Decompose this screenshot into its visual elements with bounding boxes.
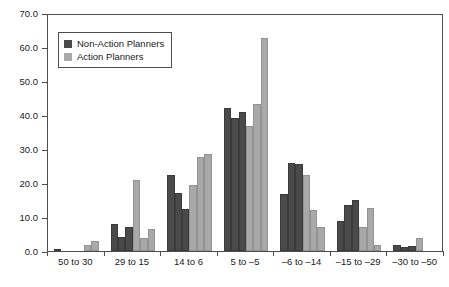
bar	[253, 104, 260, 251]
bar	[140, 238, 147, 251]
bar-chart: 0.010.020.030.040.050.060.070.0 50 to 30…	[0, 0, 449, 287]
x-axis-group-label: 29 to 15	[115, 256, 149, 267]
y-axis-tick-label: 0.0	[25, 247, 38, 257]
bar	[197, 157, 204, 251]
bar	[393, 245, 400, 251]
bar	[310, 210, 317, 251]
bar	[167, 175, 174, 252]
bar	[288, 163, 295, 251]
y-axis-tick-label: 30.0	[20, 145, 39, 155]
bar	[148, 229, 155, 251]
bar	[337, 221, 344, 251]
bar	[401, 247, 408, 251]
bar	[367, 208, 374, 251]
y-axis-tick-label: 70.0	[20, 9, 39, 19]
x-axis-group-label: 50 to 30	[58, 256, 92, 267]
bar	[91, 241, 98, 251]
bar	[280, 194, 287, 251]
y-axis-tick-label: 20.0	[20, 179, 39, 189]
x-axis: 50 to 3029 to 1514 to 65 to –5–6 to –14–…	[47, 256, 443, 276]
x-axis-tick-mark	[47, 251, 48, 256]
legend-swatch-action-planners	[64, 53, 72, 61]
bar	[246, 126, 253, 251]
x-axis-tick-mark	[330, 251, 331, 256]
bar	[261, 38, 268, 251]
bar	[175, 193, 182, 251]
bar	[416, 238, 423, 251]
y-axis: 0.010.020.030.040.050.060.070.0	[0, 0, 47, 287]
bar	[359, 227, 366, 251]
legend-item: Action Planners	[64, 50, 164, 63]
y-axis-tick-label: 40.0	[20, 111, 39, 121]
bar	[54, 249, 61, 251]
x-axis-group-label: 14 to 6	[174, 256, 203, 267]
bar	[352, 200, 359, 251]
bar	[224, 108, 231, 251]
x-axis-tick-mark	[160, 251, 161, 256]
bar	[295, 164, 302, 251]
x-axis-group-label: –15 to –29	[336, 256, 381, 267]
bar	[239, 112, 246, 251]
x-axis-group-label: –6 to –14	[282, 256, 322, 267]
bar	[317, 227, 324, 251]
bar	[133, 180, 140, 251]
bar	[344, 205, 351, 251]
bar	[118, 237, 125, 251]
x-axis-group-label: 5 to –5	[230, 256, 259, 267]
x-axis-group-label: –30 to –50	[392, 256, 437, 267]
bar	[204, 154, 211, 251]
bar	[111, 224, 118, 251]
x-axis-tick-mark	[273, 251, 274, 256]
bar	[303, 175, 310, 252]
x-axis-tick-mark	[104, 251, 105, 256]
bar	[408, 246, 415, 251]
legend-swatch-non-action-planners	[64, 40, 72, 48]
y-axis-tick-label: 60.0	[20, 43, 39, 53]
legend-item: Non-Action Planners	[64, 37, 164, 50]
bar	[84, 245, 91, 251]
y-axis-tick-label: 50.0	[20, 77, 39, 87]
bar	[182, 209, 189, 251]
x-axis-tick-mark	[386, 251, 387, 256]
x-axis-tick-mark	[217, 251, 218, 256]
bar	[125, 227, 132, 251]
bar	[231, 118, 238, 251]
bar	[374, 245, 381, 251]
y-axis-tick-label: 10.0	[20, 213, 39, 223]
bar	[189, 185, 196, 251]
legend-label-non-action-planners: Non-Action Planners	[77, 38, 164, 49]
x-axis-tick-mark	[443, 251, 444, 256]
chart-legend: Non-Action Planners Action Planners	[58, 32, 172, 68]
legend-label-action-planners: Action Planners	[77, 51, 144, 62]
